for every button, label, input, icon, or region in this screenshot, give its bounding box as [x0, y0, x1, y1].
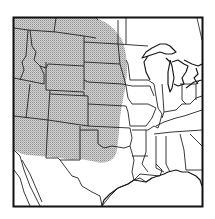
map-svg: [0, 0, 215, 219]
range-map: Central and Western United States: [0, 0, 215, 219]
